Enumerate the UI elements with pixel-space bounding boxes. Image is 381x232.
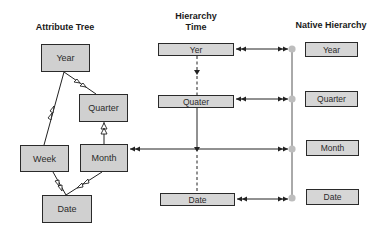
attribute-tree-title: Attribute Tree <box>15 22 115 33</box>
hierarchy-level-quater: Quater <box>158 95 234 108</box>
tree-node-week: Week <box>20 145 69 172</box>
hierarchy-time-edges <box>194 56 200 193</box>
hierarchy-time-title: Hierarchy Time <box>156 11 236 33</box>
tree-node-year: Year <box>41 44 90 72</box>
connector-dot-date <box>288 194 295 201</box>
native-hierarchy-spine <box>288 45 295 201</box>
hierarchy-time-title-line1: Hierarchy <box>156 11 236 22</box>
native-hierarchy-title: Native Hierarchy <box>290 20 372 31</box>
tree-node-month: Month <box>80 144 128 172</box>
connector-dot-quarter <box>288 95 295 102</box>
native-level-year: Year <box>305 42 358 57</box>
tree-edges <box>44 72 107 195</box>
native-level-date: Date <box>306 189 359 205</box>
tree-node-quarter: Quarter <box>79 94 128 122</box>
level-mapping-arrows <box>130 47 288 202</box>
connector-dot-month <box>288 145 295 152</box>
hierarchy-level-yer: Yer <box>158 43 234 56</box>
connector-dot-year <box>288 45 295 52</box>
tree-node-date: Date <box>42 195 92 223</box>
native-level-month: Month <box>306 140 359 156</box>
hierarchy-time-title-line2: Time <box>156 22 236 33</box>
hierarchy-level-date: Date <box>160 193 235 206</box>
native-level-quarter: Quarter <box>305 91 358 107</box>
